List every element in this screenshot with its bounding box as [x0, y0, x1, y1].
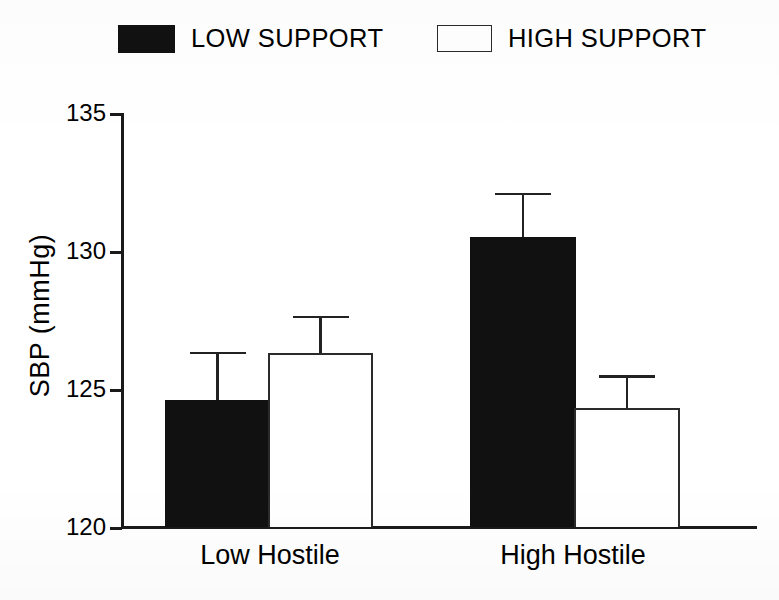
- y-axis-line: [121, 113, 124, 528]
- error-bar-stem: [626, 375, 628, 408]
- error-bar-cap: [495, 193, 551, 195]
- error-bar-stem: [319, 316, 321, 353]
- error-bar-cap: [293, 316, 349, 318]
- y-axis-title: SBP (mmHg): [25, 196, 56, 436]
- y-tick-mark: [110, 251, 122, 254]
- y-tick-mark: [110, 527, 122, 530]
- bar-low-hostile-high-support: [268, 353, 373, 527]
- error-bar-cap: [599, 375, 655, 377]
- y-tick-label: 120: [54, 515, 106, 539]
- x-tick-label-low-hostile: Low Hostile: [120, 542, 420, 569]
- y-tick-mark: [110, 389, 122, 392]
- error-bar-stem: [216, 352, 218, 400]
- bar-high-hostile-high-support: [574, 408, 680, 527]
- y-tick-label: 125: [54, 377, 106, 401]
- y-tick-mark: [110, 113, 122, 116]
- bar-low-hostile-low-support: [165, 400, 270, 527]
- error-bar-stem: [522, 193, 524, 237]
- chart-figure: LOW SUPPORT HIGH SUPPORT 135 130 125 120…: [0, 0, 779, 600]
- plot-area: 135 130 125 120 SBP (mmHg) Low Hostile H…: [0, 0, 779, 600]
- y-tick-label: 135: [54, 101, 106, 125]
- error-bar-cap: [190, 352, 246, 354]
- x-tick-label-high-hostile: High Hostile: [423, 542, 723, 569]
- bar-high-hostile-low-support: [470, 237, 576, 527]
- y-tick-label: 130: [54, 239, 106, 263]
